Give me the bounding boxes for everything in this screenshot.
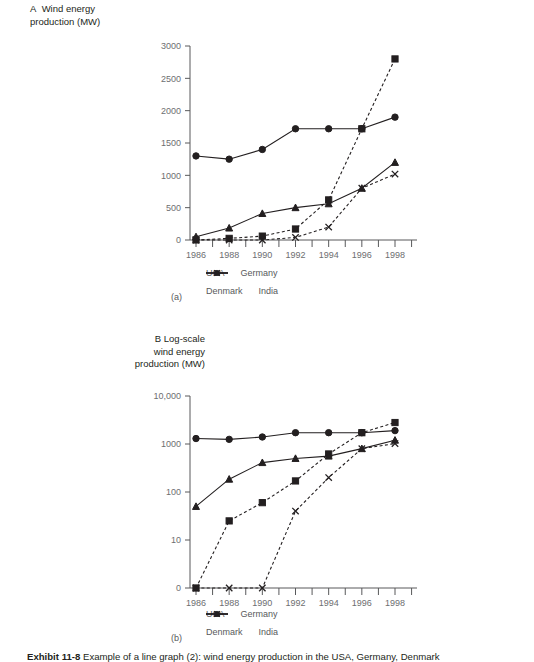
triangle-marker-icon — [226, 476, 233, 483]
panel-b-sub-label: (b) — [171, 633, 182, 643]
chart-b-log: 010100100010,000198619881990199219941996… — [0, 0, 534, 662]
y-tick-label-b: 1000 — [161, 439, 181, 449]
x-marker-icon — [206, 609, 228, 619]
y-tick-label-b: 10 — [171, 535, 181, 545]
legend-label-germany-b: Germany — [241, 609, 278, 619]
legend-item-india-b[interactable]: India — [259, 627, 279, 637]
legend-item-germany-b[interactable]: Germany — [241, 609, 278, 619]
circle-marker-icon — [193, 435, 199, 441]
series-denmark-b — [193, 437, 399, 510]
x-tick-label-b: 1990 — [252, 598, 272, 608]
circle-marker-icon — [392, 427, 398, 433]
y-tick-label-b: 10,000 — [153, 391, 181, 401]
square-marker-icon — [359, 430, 365, 436]
y-tick-label-b: 0 — [176, 583, 181, 593]
legend-label-india-b: India — [259, 627, 279, 637]
series-usa-b — [193, 427, 398, 442]
x-tick-label-b: 1988 — [219, 598, 239, 608]
x-tick-label-b: 1994 — [319, 598, 339, 608]
square-marker-icon — [259, 500, 265, 506]
triangle-marker-icon — [392, 437, 399, 444]
series-germany-b — [193, 419, 398, 591]
circle-marker-icon — [325, 429, 331, 435]
x-tick-label-b: 1996 — [352, 598, 372, 608]
y-tick-label-b: 100 — [166, 487, 181, 497]
circle-marker-icon — [259, 434, 265, 440]
square-marker-icon — [392, 419, 398, 425]
legend-item-denmark-b[interactable]: Denmark — [206, 627, 243, 637]
circle-marker-icon — [226, 436, 232, 442]
chart-b-legend: USA Germany Denmark India — [206, 609, 278, 637]
square-marker-icon — [292, 478, 298, 484]
square-marker-icon — [226, 518, 232, 524]
legend-row-2-b: Denmark India — [206, 627, 278, 637]
series-india-b — [193, 440, 398, 591]
figure-caption: Exhibit 11-8 Example of a line graph (2)… — [27, 650, 519, 662]
caption-text: Example of a line graph (2): wind energy… — [83, 651, 440, 662]
x-tick-label-b: 1986 — [186, 598, 206, 608]
x-tick-label-b: 1992 — [285, 598, 305, 608]
x-tick-label-b: 1998 — [385, 598, 405, 608]
circle-marker-icon — [292, 429, 298, 435]
caption-label: Exhibit 11-8 — [27, 651, 80, 662]
legend-label-denmark-b: Denmark — [206, 627, 243, 637]
